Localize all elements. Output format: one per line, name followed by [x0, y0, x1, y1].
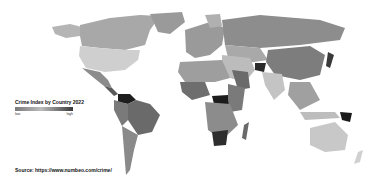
world-map: [0, 0, 385, 190]
region-peru-bolivia: [114, 100, 128, 126]
region-madagascar: [242, 122, 249, 140]
region-europe: [185, 22, 225, 58]
region-indonesia: [300, 112, 340, 120]
legend-labels: low high: [15, 112, 73, 116]
legend-low-label: low: [15, 112, 20, 116]
legend: Crime Index by Country 2022 low high: [15, 99, 75, 116]
legend-high-label: high: [66, 112, 73, 116]
region-south-africa: [212, 130, 228, 146]
region-russia: [222, 15, 345, 48]
region-southern-cone: [122, 126, 138, 175]
region-new-zealand: [354, 150, 363, 164]
region-north-africa: [178, 60, 230, 82]
region-papua-new-guinea: [340, 112, 352, 122]
source-caption: Source: https://www.numbeo.com/crime/: [15, 167, 112, 173]
region-afghanistan: [255, 63, 266, 72]
region-usa: [79, 46, 140, 72]
region-brazil: [128, 100, 160, 135]
region-australia: [310, 122, 348, 152]
legend-title: Crime Index by Country 2022: [15, 99, 75, 105]
region-greenland: [150, 12, 185, 34]
region-japan: [326, 52, 334, 68]
region-central-africa: [212, 95, 230, 104]
region-southeast-asia: [288, 82, 320, 110]
region-india: [262, 72, 285, 100]
region-alaska: [52, 24, 82, 38]
region-canada: [80, 15, 160, 50]
legend-gradient-bar: [15, 107, 73, 111]
region-west-africa: [180, 82, 210, 100]
